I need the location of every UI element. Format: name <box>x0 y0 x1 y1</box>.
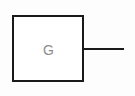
diagram-canvas: G <box>0 0 135 96</box>
component-label-g: G <box>40 41 57 59</box>
schematic-symbol-graphic <box>0 0 135 96</box>
